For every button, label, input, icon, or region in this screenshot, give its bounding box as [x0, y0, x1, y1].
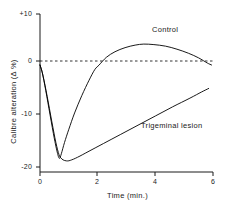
y-tick-label-plus10: +10 — [6, 10, 32, 17]
chart-figure: +10 0 -10 -20 0 2 4 6 Calibre alteration… — [0, 0, 245, 213]
series-line-trigeminal — [40, 65, 209, 161]
x-axis-ticks — [40, 172, 213, 176]
axis-group — [40, 14, 213, 172]
series-annotation-trigeminal: Trigeminal lesion — [141, 121, 203, 130]
y-axis-title: Calibre alteration (Δ %) — [9, 37, 18, 167]
series-annotation-control: Control — [152, 25, 178, 34]
x-axis-title: Time (min.) — [40, 191, 215, 200]
x-tick-label-2: 2 — [89, 178, 105, 185]
x-tick-label-4: 4 — [147, 178, 163, 185]
y-axis-ticks — [36, 14, 40, 167]
x-tick-label-6: 6 — [205, 178, 221, 185]
x-tick-label-0: 0 — [32, 178, 48, 185]
